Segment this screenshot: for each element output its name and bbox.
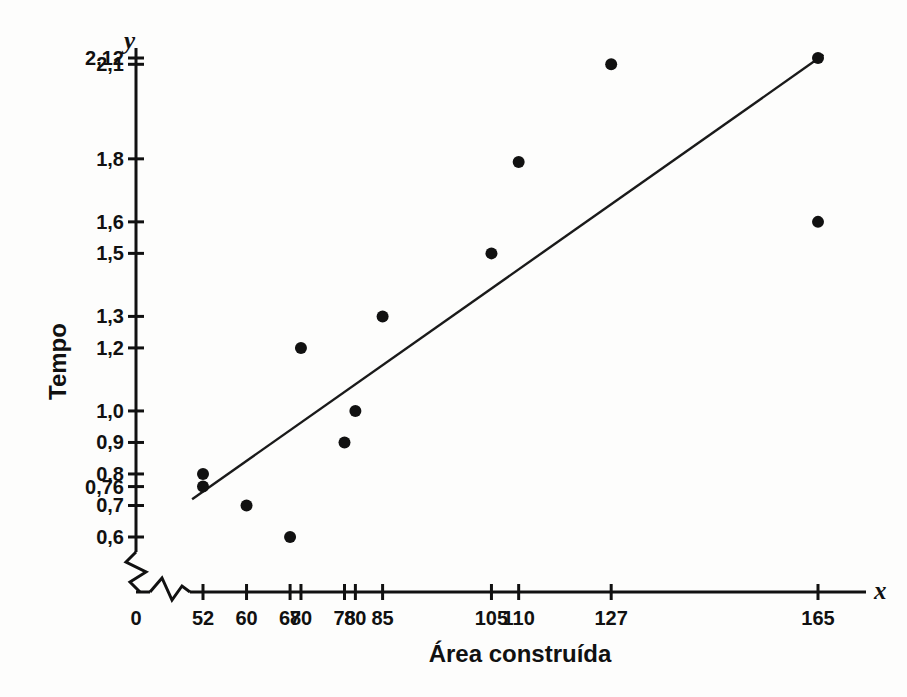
y-axis-tick-label: 2,12	[40, 48, 124, 68]
y-axis-tick-label: 1,6	[40, 212, 124, 232]
data-point-marker	[284, 531, 296, 543]
data-points	[197, 52, 824, 543]
data-point-marker	[605, 58, 617, 70]
x-axis-title: Área construída	[429, 640, 612, 668]
scatter-chart: 0,60,70,760,80,91,01,21,31,51,61,82,12,1…	[0, 0, 907, 697]
data-point-marker	[241, 499, 253, 511]
regression-line	[192, 55, 823, 499]
regression-line-path	[192, 55, 823, 499]
y-axis-tick-label: 1,0	[40, 401, 124, 421]
data-point-marker	[377, 310, 389, 322]
y-axis-tick-label: 0,8	[40, 464, 124, 484]
data-point-marker	[339, 436, 351, 448]
y-axis-break-icon	[126, 552, 146, 592]
data-point-marker	[349, 405, 361, 417]
x-axis-tick-label: 85	[371, 608, 393, 628]
x-axis-tick-label: 127	[594, 608, 627, 628]
data-point-marker	[197, 468, 209, 480]
data-point-marker	[485, 247, 497, 259]
x-axis-tick-label: 165	[801, 608, 834, 628]
x-axis-break-icon	[150, 578, 190, 600]
y-axis-tick-label: 1,5	[40, 243, 124, 263]
x-axis-tick-label: 110	[503, 608, 535, 628]
x-axis-tick-label: 60	[235, 608, 257, 628]
data-point-marker	[197, 481, 209, 493]
y-axis-tick-label: 0,7	[40, 495, 124, 515]
x-axis-tick-label: 70	[290, 608, 312, 628]
x-axis-tick-label: 0	[130, 608, 141, 628]
y-axis-tick-label: 1,8	[40, 149, 124, 169]
data-point-marker	[812, 52, 824, 64]
x-axis-tick-label: 80	[344, 608, 366, 628]
y-axis-title: Tempo	[44, 323, 72, 400]
data-point-marker	[812, 216, 824, 228]
y-axis-tick-label: 0,6	[40, 527, 124, 547]
chart-canvas	[0, 0, 907, 697]
x-axis-tick-label: 52	[192, 608, 214, 628]
y-axis-tick-label: 0,9	[40, 432, 124, 452]
data-point-marker	[513, 156, 525, 168]
data-point-marker	[295, 342, 307, 354]
y-axis-symbol: y	[124, 28, 135, 53]
x-axis-symbol: x	[874, 578, 887, 603]
